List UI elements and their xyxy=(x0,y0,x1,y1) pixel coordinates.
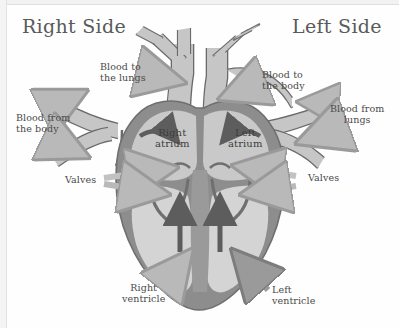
pointer-blood-from-lungs-upper xyxy=(300,102,330,104)
label-right-atrium: Right atrium xyxy=(155,127,189,149)
heart-illustration xyxy=(0,0,399,328)
title-right-side: Right Side xyxy=(22,16,126,37)
septum xyxy=(191,170,210,292)
callout-blood-from-body: Blood from the body xyxy=(16,113,70,134)
callout-blood-from-lungs: Blood from lungs xyxy=(330,104,384,125)
callout-right-ventricle: Right ventricle xyxy=(122,283,165,304)
heart-diagram-page: Right Side Left Side Blood to the lungs … xyxy=(0,0,399,328)
callout-blood-to-body: Blood to the body xyxy=(262,70,305,91)
pointer-blood-from-lungs-lower xyxy=(300,128,338,142)
title-left-side: Left Side xyxy=(292,16,382,37)
pointer-blood-to-body xyxy=(222,82,262,98)
callout-valves-left: Valves xyxy=(65,175,96,186)
label-left-atrium: Left atrium xyxy=(228,127,262,149)
callout-valves-right: Valves xyxy=(308,173,339,184)
callout-blood-to-lungs: Blood to the lungs xyxy=(100,62,146,83)
callout-left-ventricle: Left ventricle xyxy=(272,285,315,306)
